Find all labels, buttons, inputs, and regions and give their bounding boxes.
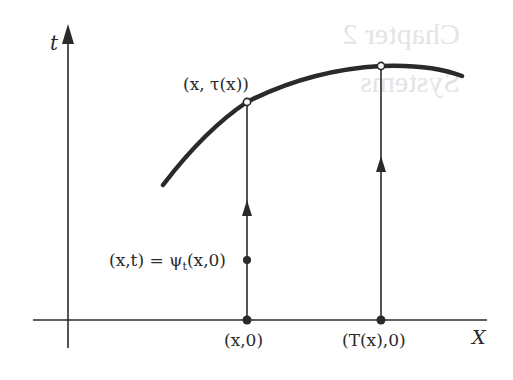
flow-diagram: Chapter 2 Systems t X (x, τ(x)) (x,t) = … (0, 0, 513, 380)
flow-arrow-x-icon (242, 200, 252, 216)
t-axis-label: t (50, 31, 59, 55)
show-through-line-1: Chapter 2 (343, 17, 460, 50)
flow-point-dot (243, 256, 251, 264)
curve-point-tx-open-dot (377, 62, 384, 69)
diagram-canvas: Chapter 2 Systems t X (x, τ(x)) (x,t) = … (0, 0, 513, 380)
curve-point-label: (x, τ(x)) (183, 74, 249, 94)
base-point-x-label: (x,0) (224, 330, 263, 350)
flow-point-label-tail: (x,0) (187, 250, 226, 270)
base-point-x-dot (243, 316, 252, 325)
flow-point-label: (x,t) = ψt(x,0) (109, 250, 226, 273)
base-point-tx-dot (377, 316, 386, 325)
flow-arrow-tx-icon (376, 156, 386, 172)
base-point-tx-label: (T(x),0) (342, 330, 406, 350)
t-axis-arrow-icon (62, 24, 74, 44)
x-axis-label: X (470, 326, 487, 348)
flow-point-label-main: (x,t) = ψ (109, 250, 182, 270)
show-through-text: Chapter 2 Systems (343, 17, 460, 98)
curve-point-x-open-dot (243, 98, 250, 105)
